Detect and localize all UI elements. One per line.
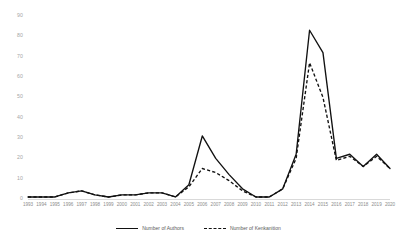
series-line-number-of-authors bbox=[28, 30, 390, 197]
series-line-number-of-kenkanition bbox=[28, 63, 390, 197]
legend-item[interactable]: Number of Kenkanition bbox=[204, 226, 281, 231]
legend-swatch-dashed-icon bbox=[204, 228, 226, 229]
x-axis-tick-label: 2006 bbox=[197, 203, 207, 208]
legend-label: Number of Authors bbox=[142, 226, 184, 231]
legend-item[interactable]: Number of Authors bbox=[116, 226, 184, 231]
x-axis-tick-label: 2020 bbox=[385, 203, 395, 208]
x-axis-tick-label: 2007 bbox=[211, 203, 221, 208]
x-axis-tick-label: 2015 bbox=[318, 203, 328, 208]
x-axis-labels: 1993199419951996199719981999200020012002… bbox=[0, 203, 397, 215]
line-chart: 9080706050403020100 19931994199519961997… bbox=[0, 0, 397, 238]
x-axis-tick-label: 2014 bbox=[304, 203, 314, 208]
x-axis-tick-label: 2018 bbox=[358, 203, 368, 208]
x-axis-tick-label: 2013 bbox=[291, 203, 301, 208]
x-axis-tick-label: 2017 bbox=[345, 203, 355, 208]
chart-legend: Number of AuthorsNumber of Kenkanition bbox=[0, 221, 397, 235]
x-axis-tick-label: 2019 bbox=[371, 203, 381, 208]
x-axis-tick-label: 2002 bbox=[144, 203, 154, 208]
x-axis-tick-label: 2008 bbox=[224, 203, 234, 208]
x-axis-tick-label: 1993 bbox=[23, 203, 33, 208]
x-axis-tick-label: 2005 bbox=[184, 203, 194, 208]
plot-area: 9080706050403020100 19931994199519961997… bbox=[0, 0, 397, 238]
x-axis-tick-label: 1995 bbox=[50, 203, 60, 208]
x-axis-tick-label: 2011 bbox=[264, 203, 274, 208]
x-axis-tick-label: 2001 bbox=[130, 203, 140, 208]
x-axis-tick-label: 2003 bbox=[157, 203, 167, 208]
x-axis-tick-label: 2012 bbox=[278, 203, 288, 208]
x-axis-tick-label: 1997 bbox=[77, 203, 87, 208]
legend-label: Number of Kenkanition bbox=[230, 226, 281, 231]
x-axis-tick-label: 2016 bbox=[331, 203, 341, 208]
x-axis-tick-label: 2000 bbox=[117, 203, 127, 208]
x-axis-tick-label: 1996 bbox=[63, 203, 73, 208]
x-axis-tick-label: 2004 bbox=[170, 203, 180, 208]
x-axis-tick-label: 1994 bbox=[36, 203, 46, 208]
x-axis-tick-label: 1999 bbox=[103, 203, 113, 208]
legend-swatch-solid-icon bbox=[116, 228, 138, 229]
x-axis-tick-label: 2010 bbox=[251, 203, 261, 208]
x-axis-tick-label: 1998 bbox=[90, 203, 100, 208]
x-axis-tick-label: 2009 bbox=[237, 203, 247, 208]
